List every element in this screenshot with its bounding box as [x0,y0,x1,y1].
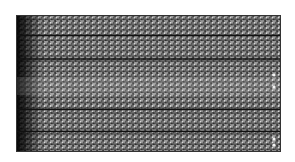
triangular-mesh [16,15,281,152]
light-bands [16,77,281,95]
mesh-figure [16,15,281,152]
